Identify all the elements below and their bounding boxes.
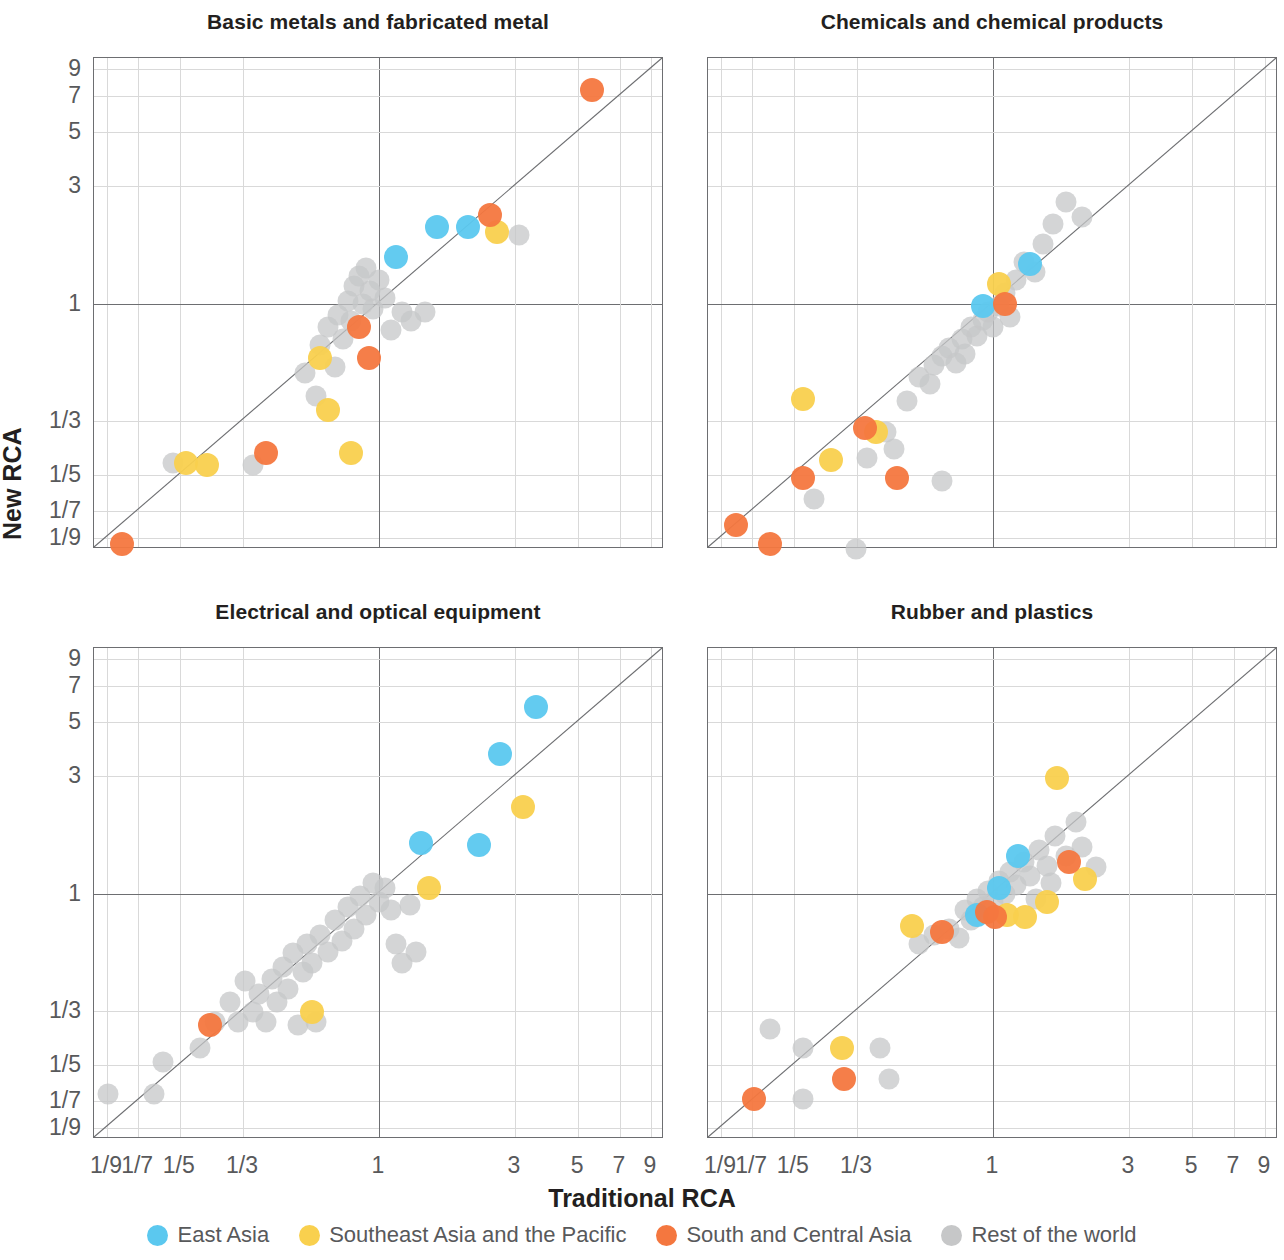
- plot-area: [93, 647, 663, 1138]
- y-tick-label: 3: [11, 172, 81, 199]
- data-point: [1065, 812, 1086, 833]
- panel-title: Basic metals and fabricated metal: [93, 10, 663, 34]
- legend-item-rest_of_world[interactable]: Rest of the world: [941, 1222, 1136, 1248]
- data-point: [1071, 207, 1092, 228]
- data-point: [509, 225, 530, 246]
- y-tick-label: 1/9: [11, 523, 81, 550]
- data-point: [399, 894, 420, 915]
- x-tick-label: 1/7: [121, 1152, 153, 1179]
- data-point: [488, 742, 512, 766]
- data-point: [1045, 766, 1069, 790]
- data-point: [380, 319, 401, 340]
- y-tick-label: 1/5: [11, 1051, 81, 1078]
- data-point: [930, 920, 954, 944]
- legend-marker-icon: [299, 1225, 320, 1246]
- plot-area: [93, 57, 663, 548]
- x-tick-label: 3: [1122, 1152, 1135, 1179]
- y-tick-label: 7: [11, 672, 81, 699]
- y-tick-label: 1/3: [11, 996, 81, 1023]
- data-point: [803, 488, 824, 509]
- data-point: [524, 695, 548, 719]
- panel-title: Electrical and optical equipment: [93, 600, 663, 624]
- data-point: [900, 914, 924, 938]
- data-point: [856, 447, 877, 468]
- data-point: [386, 934, 407, 955]
- data-point: [300, 1000, 324, 1024]
- legend-marker-icon: [147, 1225, 168, 1246]
- x-axis-label: Traditional RCA: [0, 1184, 1284, 1213]
- data-point: [791, 466, 815, 490]
- legend-label: Rest of the world: [971, 1222, 1136, 1248]
- data-point: [742, 1087, 766, 1111]
- data-point: [919, 373, 940, 394]
- data-point: [845, 539, 866, 560]
- x-tick-label: 7: [612, 1152, 625, 1179]
- y-tick-label: 3: [11, 762, 81, 789]
- data-point: [406, 941, 427, 962]
- legend-marker-icon: [656, 1225, 677, 1246]
- legend-item-east_asia[interactable]: East Asia: [147, 1222, 269, 1248]
- data-point: [853, 416, 877, 440]
- data-point: [414, 302, 435, 323]
- data-point: [724, 513, 748, 537]
- legend-label: East Asia: [177, 1222, 269, 1248]
- x-tick-label: 3: [508, 1152, 521, 1179]
- y-tick-label: 1/9: [11, 1113, 81, 1140]
- data-point: [758, 532, 782, 556]
- data-point: [1033, 233, 1054, 254]
- panel-electrical-optical: Electrical and optical equipment975311/3…: [93, 647, 663, 1138]
- y-tick-label: 1/7: [11, 496, 81, 523]
- data-point: [791, 387, 815, 411]
- data-point: [278, 978, 299, 999]
- y-tick-label: 1/5: [11, 461, 81, 488]
- data-point: [417, 876, 441, 900]
- panel-title: Chemicals and chemical products: [707, 10, 1277, 34]
- x-tick-label: 5: [1185, 1152, 1198, 1179]
- data-point: [1044, 825, 1065, 846]
- x-tick-label: 1/9: [90, 1152, 122, 1179]
- data-point: [153, 1052, 174, 1073]
- data-point: [955, 344, 976, 365]
- data-point: [409, 831, 433, 855]
- legend-item-south_central_asia[interactable]: South and Central Asia: [656, 1222, 911, 1248]
- data-point: [792, 1037, 813, 1058]
- y-tick-label: 7: [11, 82, 81, 109]
- data-point: [897, 391, 918, 412]
- legend-item-southeast_asia_pacific[interactable]: Southeast Asia and the Pacific: [299, 1222, 626, 1248]
- x-tick-label: 1/3: [226, 1152, 258, 1179]
- x-tick-label: 1: [372, 1152, 385, 1179]
- data-point: [425, 215, 449, 239]
- data-point: [993, 292, 1017, 316]
- data-point: [384, 245, 408, 269]
- x-tick-label: 5: [571, 1152, 584, 1179]
- data-point: [456, 215, 480, 239]
- x-tick-label: 9: [1258, 1152, 1271, 1179]
- y-tick-label: 9: [11, 645, 81, 672]
- data-point: [174, 451, 198, 475]
- x-tick-label: 1/7: [735, 1152, 767, 1179]
- data-point: [478, 203, 502, 227]
- data-point: [219, 992, 240, 1013]
- y-tick-label: 1/3: [11, 406, 81, 433]
- data-point: [357, 346, 381, 370]
- data-point: [987, 876, 1011, 900]
- data-point: [316, 398, 340, 422]
- data-point: [255, 1011, 276, 1032]
- data-point: [983, 905, 1007, 929]
- data-point: [511, 795, 535, 819]
- data-point: [110, 532, 134, 556]
- data-point: [869, 1037, 890, 1058]
- data-point: [878, 1069, 899, 1090]
- data-point: [375, 878, 396, 899]
- x-tick-label: 7: [1226, 1152, 1239, 1179]
- x-tick-label: 1/5: [777, 1152, 809, 1179]
- y-tick-label: 5: [11, 117, 81, 144]
- panel-chemicals: Chemicals and chemical products: [707, 57, 1277, 548]
- data-point: [198, 1013, 222, 1037]
- data-point: [98, 1083, 119, 1104]
- legend: East AsiaSoutheast Asia and the PacificS…: [0, 1222, 1284, 1248]
- y-tick-label: 1: [11, 289, 81, 316]
- data-point: [830, 1036, 854, 1060]
- x-tick-label: 1/5: [163, 1152, 195, 1179]
- data-point: [380, 899, 401, 920]
